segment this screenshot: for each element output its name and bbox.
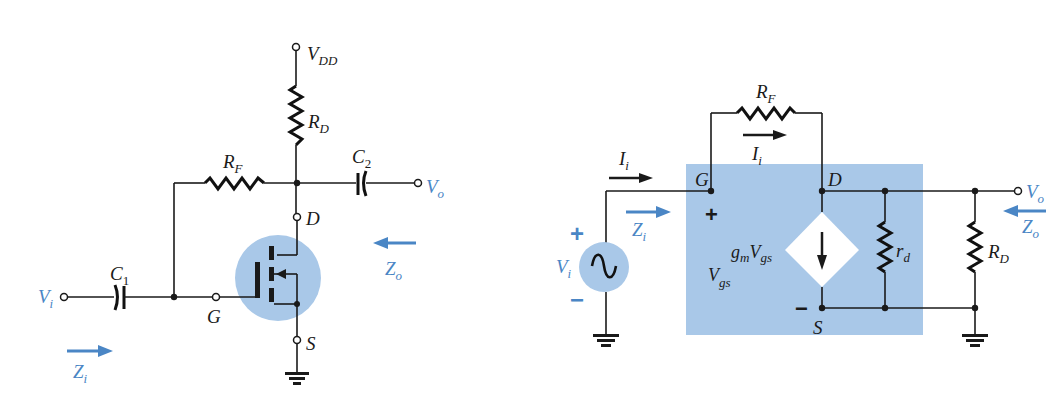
- vdd-terminal: [293, 44, 300, 51]
- source-label: S: [306, 333, 316, 354]
- c2-plate-curved: [364, 171, 367, 196]
- vo-terminal: [415, 180, 422, 187]
- c1-plate-curved: [115, 285, 118, 310]
- zi-arrow-icon: [67, 345, 113, 357]
- vi-minus: −: [570, 286, 584, 313]
- ii-arrow-top-icon: [743, 130, 787, 140]
- zi-label-model: Zi: [632, 219, 647, 244]
- gate-plate: [255, 262, 260, 298]
- zo-label: Zo: [385, 258, 403, 283]
- rd-label-model: RD: [987, 241, 1010, 266]
- zo-arrow-icon: [373, 237, 416, 249]
- gate-terminal: [213, 294, 220, 301]
- source-terminal: [294, 337, 301, 344]
- vi-terminal: [61, 294, 68, 301]
- rd-resistor: [290, 86, 302, 145]
- rf-resistor-model: [737, 108, 795, 119]
- c2-label: C2: [352, 146, 371, 171]
- vi-plus: +: [570, 220, 584, 247]
- vi-label-model: Vi: [556, 256, 572, 281]
- rd-resistor-model: [969, 222, 981, 272]
- rd-label: RD: [307, 111, 330, 136]
- c1-label: C1: [110, 263, 129, 288]
- gate-label: G: [207, 306, 221, 327]
- zo-label-model: Zo: [1022, 216, 1040, 241]
- ground-icon: [285, 372, 309, 385]
- gate-label-model: G: [695, 169, 709, 190]
- right-circuit: RF Ii Ii G D S + − gmVgs Vgs rd RD + − V…: [556, 81, 1046, 347]
- rf-resistor: [205, 178, 264, 189]
- ground-icon-load: [962, 334, 988, 347]
- circuit-figure: VDD RD RF C2 Vo D G S C1 Vi Zo Zi: [0, 0, 1052, 416]
- ii-arrow-left-icon: [609, 173, 653, 183]
- left-circuit: VDD RD RF C2 Vo D G S C1 Vi Zo Zi: [38, 43, 445, 386]
- vgs-minus: −: [795, 296, 808, 321]
- zi-arrow-model-icon: [626, 206, 671, 218]
- ground-icon-source: [593, 334, 619, 347]
- zi-label: Zi: [73, 361, 88, 386]
- rf-label: RF: [222, 151, 244, 176]
- drain-junction: [294, 180, 300, 186]
- vgs-plus: +: [705, 202, 718, 227]
- vo-label-model: Vo: [1026, 181, 1045, 206]
- drain-label: D: [305, 208, 320, 229]
- drain-label-model: D: [827, 169, 842, 190]
- vo-terminal-model: [1015, 188, 1022, 195]
- rf-label-model: RF: [755, 81, 777, 106]
- drain-terminal: [294, 214, 301, 221]
- source-label-model: S: [813, 317, 823, 338]
- vo-label: Vo: [426, 176, 445, 201]
- mosfet-highlight: [235, 235, 321, 321]
- ii-label-left: Ii: [618, 148, 629, 173]
- vi-label: Vi: [38, 286, 54, 311]
- gate-node: [708, 188, 714, 194]
- source-node: [819, 305, 825, 311]
- vdd-label: VDD: [307, 43, 338, 68]
